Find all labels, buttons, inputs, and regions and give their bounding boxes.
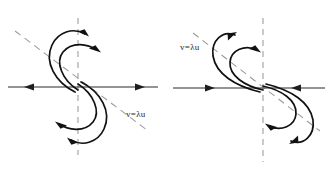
- trajectory-lower-outer: [71, 82, 107, 143]
- trajectory-arrowhead-lower-inner: [265, 124, 277, 131]
- phase-portrait-figure: v=λu v=λu: [0, 0, 331, 178]
- trajectory-lower-outer: [266, 84, 313, 142]
- panel-unstable-node: [0, 0, 166, 178]
- panel-stable-node: [165, 0, 331, 178]
- axis-arrowhead-right: [291, 85, 301, 92]
- trajectory-arrowhead-upper-outer: [78, 29, 89, 36]
- axis-arrowhead-right: [135, 84, 145, 91]
- trajectory-arrowhead-upper-inner: [249, 45, 261, 52]
- axis-arrowhead-left: [24, 84, 34, 91]
- axis-arrowhead-left: [205, 85, 215, 92]
- eigendirection-label-right: v=λu: [180, 42, 200, 52]
- trajectory-arrowhead-lower-outer: [67, 137, 78, 144]
- trajectory-upper-outer: [213, 34, 260, 92]
- eigendirection-label-left: v=λu: [126, 109, 146, 119]
